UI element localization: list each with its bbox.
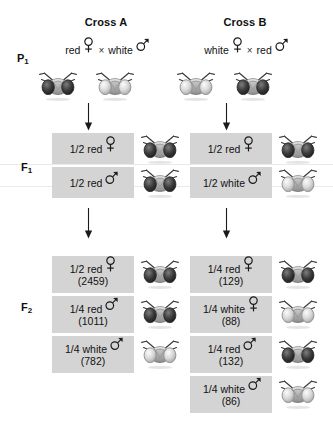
fly-f1-cross-a-0 xyxy=(140,133,180,165)
female-symbol-icon xyxy=(232,42,243,54)
f2-cross-a-row-0-text: 1/2 red xyxy=(70,261,117,276)
f1-cross-a-row-0-fraction: 1/2 red xyxy=(70,144,103,156)
arrow-cross-a-p1-to-f1 xyxy=(84,103,93,135)
female-symbol-icon xyxy=(105,261,116,273)
generation-label-f2: F2 xyxy=(21,301,32,313)
f2-cross-a-row-1-text: 1/4 red xyxy=(70,301,117,316)
f2-cross-a-row-1: 1/4 red (1011) xyxy=(52,296,134,333)
f1-cross-a-row-1-text: 1/2 red xyxy=(70,175,117,190)
fly-f2-cross-b-1 xyxy=(278,298,318,330)
f2-cross-a-row-2-count: (782) xyxy=(81,356,106,368)
f2-cross-b-row-3-text: 1/4 white xyxy=(203,381,259,396)
f2-cross-b-row-3: 1/4 white (86) xyxy=(190,376,272,413)
f2-cross-b-row-1-text: 1/4 white xyxy=(203,301,259,316)
male-symbol-icon xyxy=(105,175,116,187)
fly-f1-cross-b-1 xyxy=(278,167,318,199)
cross-a-mother-phenotype: red xyxy=(65,44,80,56)
f2-cross-a-row-1-count: (1011) xyxy=(78,316,108,328)
male-symbol-icon xyxy=(243,341,254,353)
female-symbol-icon xyxy=(248,301,259,313)
arrow-cross-b-p1-to-f1 xyxy=(222,103,231,135)
f2-cross-b-row-1: 1/4 white (88) xyxy=(190,296,272,333)
f1-letter: F xyxy=(21,161,28,173)
f2-cross-b-row-3-count: (86) xyxy=(222,396,241,408)
cross-b-mother-phenotype: white xyxy=(204,44,229,56)
generation-label-p1: P1 xyxy=(17,52,29,64)
female-symbol-icon xyxy=(243,141,254,153)
f1-cross-b-row-1: 1/2 white xyxy=(190,167,272,198)
male-symbol-icon xyxy=(136,42,147,54)
f1-cross-b-row-1-fraction: 1/2 white xyxy=(203,178,245,190)
f2-cross-a-row-0: 1/2 red (2459) xyxy=(52,256,134,293)
f1-cross-a-row-1: 1/2 red xyxy=(52,167,134,198)
cross-a-father-phenotype: white xyxy=(108,44,133,56)
fly-f2-cross-a-2 xyxy=(140,338,180,370)
fly-f2-cross-b-3 xyxy=(278,378,318,410)
fly-f2-cross-b-2 xyxy=(278,338,318,370)
f2-letter: F xyxy=(21,301,28,313)
f2-cross-a-row-2-text: 1/4 white xyxy=(65,341,121,356)
cross-b-title: Cross B xyxy=(190,16,300,28)
female-symbol-icon xyxy=(243,261,254,273)
fly-p1-cross-b-mother xyxy=(176,70,216,102)
f2-cross-b-row-0-count: (129) xyxy=(219,276,244,288)
cross-a-title: Cross A xyxy=(52,16,160,28)
f1-cross-b-row-0-text: 1/2 red xyxy=(208,141,255,156)
male-symbol-icon xyxy=(110,341,121,353)
f1-subscript: 1 xyxy=(28,166,32,175)
fruit-fly-cross-figure: Cross A Cross B P1 F1 F2 red × white xyxy=(0,0,333,424)
f2-cross-b-row-2-text: 1/4 red xyxy=(208,341,255,356)
fly-f2-cross-b-0 xyxy=(278,258,318,290)
fly-p1-cross-b-father xyxy=(233,70,273,102)
male-symbol-icon xyxy=(275,42,286,54)
cross-b-parental-cross: white × red xyxy=(178,42,312,56)
arrow-cross-b-f1-to-f2 xyxy=(222,208,231,243)
fly-f1-cross-b-0 xyxy=(278,133,318,165)
cross-b-father-phenotype: red xyxy=(257,44,272,56)
f2-cross-b-row-2-count: (132) xyxy=(219,356,244,368)
f1-cross-a-row-0: 1/2 red xyxy=(52,133,134,164)
male-symbol-icon xyxy=(105,301,116,313)
cross-a-cross-operator: × xyxy=(98,45,104,56)
f2-cross-b-row-0-text: 1/4 red xyxy=(208,261,255,276)
p1-subscript: 1 xyxy=(24,57,28,66)
f1-cross-b-row-0: 1/2 red xyxy=(190,133,272,164)
fly-f1-cross-a-1 xyxy=(140,167,180,199)
f1-cross-b-row-0-fraction: 1/2 red xyxy=(208,144,241,156)
f2-cross-b-row-1-count: (88) xyxy=(222,316,241,328)
fly-f2-cross-a-1 xyxy=(140,298,180,330)
f2-cross-b-row-2: 1/4 red (132) xyxy=(190,336,272,373)
f1-cross-a-row-1-fraction: 1/2 red xyxy=(70,178,103,190)
f1-cross-a-row-0-text: 1/2 red xyxy=(70,141,117,156)
female-symbol-icon xyxy=(105,141,116,153)
fly-f2-cross-a-0 xyxy=(140,258,180,290)
f2-cross-a-row-2: 1/4 white (782) xyxy=(52,336,134,373)
f1-cross-b-row-1-text: 1/2 white xyxy=(203,175,259,190)
cross-a-parental-cross: red × white xyxy=(40,42,172,56)
fly-p1-cross-a-mother xyxy=(38,70,78,102)
female-symbol-icon xyxy=(83,42,94,54)
generation-label-f1: F1 xyxy=(21,161,32,173)
cross-b-cross-operator: × xyxy=(247,45,253,56)
arrow-cross-a-f1-to-f2 xyxy=(84,208,93,243)
fly-p1-cross-a-father xyxy=(95,70,135,102)
male-symbol-icon xyxy=(248,175,259,187)
male-symbol-icon xyxy=(248,381,259,393)
f2-cross-a-row-0-count: (2459) xyxy=(78,276,108,288)
f2-subscript: 2 xyxy=(28,306,32,315)
f2-cross-b-row-0: 1/4 red (129) xyxy=(190,256,272,293)
